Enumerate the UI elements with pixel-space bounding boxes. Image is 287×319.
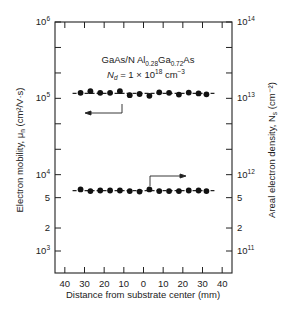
data-point xyxy=(117,188,123,194)
data-point xyxy=(204,91,210,97)
y-axis-label-left: Electron mobility, μn (cm²/V·s) xyxy=(14,87,26,212)
data-point xyxy=(88,88,94,94)
tick-label: 103 xyxy=(36,244,51,256)
mobility-series xyxy=(73,88,215,98)
chart: 1061051045210310141013101252101140302010… xyxy=(0,0,287,319)
tick-label: 5 xyxy=(45,192,50,203)
data-point xyxy=(196,91,202,97)
tick-label: 0 xyxy=(141,278,146,289)
tick-label: 10 xyxy=(158,278,169,289)
data-point xyxy=(88,188,94,194)
axis-tick-labels: 1061051045210310141013101252101140302010… xyxy=(36,15,255,289)
data-point xyxy=(204,188,210,194)
data-point xyxy=(176,92,182,98)
density-series xyxy=(73,187,215,195)
data-point xyxy=(156,89,162,95)
data-point xyxy=(186,188,192,194)
data-point xyxy=(137,189,143,195)
tick-label: 2 xyxy=(237,222,242,233)
left-axis-arrow-icon xyxy=(85,104,122,115)
y-axis-label-right: Areal electron density, Ns (cm⁻²) xyxy=(266,82,278,218)
tick-label: 1013 xyxy=(237,91,255,103)
tick-label: 1014 xyxy=(237,15,255,27)
tick-label: 40 xyxy=(60,278,71,289)
tick-label: 20 xyxy=(99,278,110,289)
x-axis-label: Distance from substrate center (mm) xyxy=(66,289,220,300)
tick-label: 5 xyxy=(237,192,242,203)
data-point xyxy=(78,187,84,193)
data-point xyxy=(107,90,113,96)
tick-label: 1011 xyxy=(237,244,255,256)
tick-label: 30 xyxy=(79,278,90,289)
data-point xyxy=(176,188,182,194)
data-point xyxy=(196,188,202,194)
data-point xyxy=(117,88,123,94)
tick-label: 20 xyxy=(178,278,189,289)
right-axis-arrow-icon xyxy=(150,174,186,186)
data-point xyxy=(147,93,153,99)
annotation-doping: Nd = 1 × 1018 cm−3 xyxy=(107,68,185,81)
data-point xyxy=(137,91,143,97)
annotation-material: GaAs/N Al0.28Ga0.72As xyxy=(102,54,195,67)
data-point xyxy=(127,92,133,98)
tick-label: 106 xyxy=(36,15,51,27)
data-point xyxy=(97,90,103,96)
tick-label: 2 xyxy=(45,222,50,233)
tick-label: 10 xyxy=(119,278,130,289)
data-point xyxy=(127,188,133,194)
tick-label: 40 xyxy=(217,278,228,289)
tick-label: 105 xyxy=(36,91,51,103)
data-point xyxy=(97,188,103,194)
tick-label: 104 xyxy=(36,168,51,180)
data-point xyxy=(166,188,172,194)
data-point xyxy=(156,188,162,194)
data-point xyxy=(107,188,113,194)
tick-label: 30 xyxy=(197,278,208,289)
data-point xyxy=(78,90,84,96)
data-point xyxy=(166,90,172,96)
data-point xyxy=(147,187,153,193)
tick-label: 1012 xyxy=(237,168,255,180)
data-point xyxy=(186,90,192,96)
